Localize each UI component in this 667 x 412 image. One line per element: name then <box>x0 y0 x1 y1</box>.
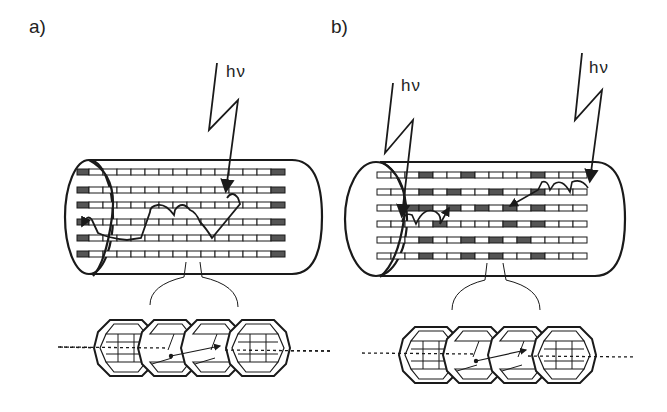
diagram-canvas <box>0 0 667 412</box>
cage-chain-a <box>60 320 330 376</box>
panel-b <box>345 53 636 383</box>
rods-b <box>377 172 587 259</box>
panel-a <box>58 63 330 376</box>
connector-a <box>150 262 238 307</box>
connector-b <box>452 263 540 310</box>
energy-path-a <box>82 194 240 240</box>
cage-chain-b <box>362 327 636 383</box>
